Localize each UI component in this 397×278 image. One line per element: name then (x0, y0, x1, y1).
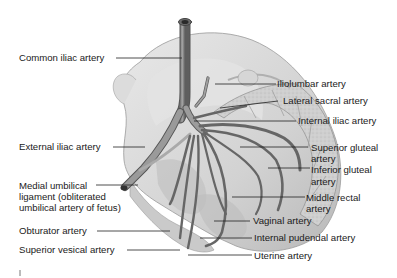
label-internal-iliac-artery: Internal iliac artery (298, 115, 376, 126)
label-inferior-gluteal-line1: Inferior gluteal (311, 164, 372, 175)
label-lateral-sacral-artery: Lateral sacral artery (283, 95, 368, 106)
label-superior-vesical-artery: Superior vesical artery (19, 244, 114, 255)
pelvic-arteries-diagram: Common iliac artery External iliac arter… (0, 0, 397, 278)
label-medial-umbilical-line1: Medial umbilical (19, 180, 87, 191)
label-vaginal-artery: Vaginal artery (253, 215, 311, 226)
label-inferior-gluteal-line2: artery (311, 176, 336, 187)
label-internal-pudendal-artery: Internal pudendal artery (254, 232, 355, 243)
label-external-iliac-artery: External iliac artery (19, 141, 101, 152)
label-obturator-artery: Obturator artery (19, 225, 87, 236)
label-middle-rectal-line2: artery (306, 203, 331, 214)
label-superior-gluteal-line1: Superior gluteal (311, 142, 378, 153)
label-superior-gluteal-line2: artery (311, 153, 336, 164)
label-uterine-artery: Uterine artery (254, 250, 312, 261)
label-medial-umbilical-line3: umbilical artery of fetus) (19, 202, 121, 213)
label-middle-rectal-line1: Middle rectal (306, 192, 360, 203)
label-common-iliac-artery: Common iliac artery (19, 52, 104, 63)
label-iliolumbar-artery: Iliolumbar artery (277, 78, 346, 89)
label-medial-umbilical-line2: ligament (obliterated (19, 191, 106, 202)
